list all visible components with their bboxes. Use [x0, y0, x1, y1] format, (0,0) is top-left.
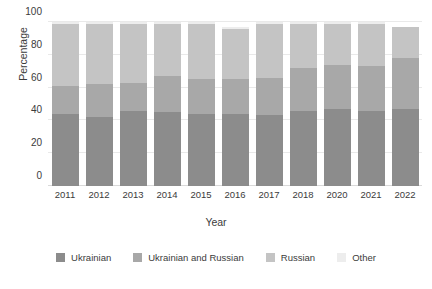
bar-segment[interactable] [324, 65, 351, 109]
y-axis-tick-label: 80 [31, 38, 42, 49]
legend-label: Ukrainian and Russian [148, 252, 244, 263]
bar-column[interactable] [52, 22, 79, 186]
bar-segment[interactable] [358, 66, 385, 110]
legend-swatch-icon [337, 253, 346, 262]
bar-segment[interactable] [290, 111, 317, 186]
bar-column[interactable] [256, 22, 283, 186]
bar-column[interactable] [324, 22, 351, 186]
legend-item[interactable]: Ukrainian and Russian [133, 252, 244, 263]
legend-label: Ukrainian [71, 252, 111, 263]
bar-group [48, 22, 422, 186]
legend-item[interactable]: Other [337, 252, 376, 263]
chart-title [0, 0, 432, 1]
bar-column[interactable] [392, 22, 419, 186]
x-axis-tick-label: 2014 [154, 189, 181, 200]
bar-segment[interactable] [154, 112, 181, 186]
bar-segment[interactable] [290, 68, 317, 111]
bar-segment[interactable] [256, 78, 283, 116]
bar-column[interactable] [120, 22, 147, 186]
bar-segment[interactable] [154, 24, 181, 76]
x-axis-tick-label: 2012 [86, 189, 113, 200]
x-axis-label: Year [0, 216, 432, 228]
bar-segment[interactable] [120, 24, 147, 83]
bar-column[interactable] [222, 22, 249, 186]
chart-container: Percentage 020406080100 2011201220132014… [0, 0, 432, 289]
bar-segment[interactable] [120, 111, 147, 186]
bar-segment[interactable] [52, 114, 79, 186]
bar-segment[interactable] [154, 76, 181, 112]
legend-label: Russian [281, 252, 315, 263]
bar-segment[interactable] [392, 58, 419, 109]
legend-swatch-icon [56, 253, 65, 262]
x-axis-tick-label: 2017 [256, 189, 283, 200]
y-axis-tick-label: 20 [31, 137, 42, 148]
x-axis-tick-label: 2018 [290, 189, 317, 200]
chart-legend: UkrainianUkrainian and RussianRussianOth… [0, 252, 432, 263]
legend-label: Other [352, 252, 376, 263]
bar-segment[interactable] [188, 79, 215, 113]
x-axis-tick-label: 2015 [188, 189, 215, 200]
bar-segment[interactable] [358, 24, 385, 67]
bar-segment[interactable] [188, 24, 215, 80]
bar-column[interactable] [86, 22, 113, 186]
bar-segment[interactable] [86, 24, 113, 85]
legend-item[interactable]: Ukrainian [56, 252, 111, 263]
y-axis-tick-label: 0 [36, 170, 42, 181]
bar-segment[interactable] [256, 115, 283, 186]
legend-swatch-icon [266, 253, 275, 262]
x-axis-tick-label: 2016 [222, 189, 249, 200]
bar-segment[interactable] [222, 79, 249, 113]
bar-column[interactable] [154, 22, 181, 186]
bar-segment[interactable] [290, 24, 317, 68]
bar-segment[interactable] [86, 117, 113, 186]
bar-segment[interactable] [188, 114, 215, 186]
bar-segment[interactable] [222, 29, 249, 80]
bar-column[interactable] [188, 22, 215, 186]
y-axis-label: Percentage [17, 4, 29, 104]
x-axis-tick-label: 2011 [52, 189, 79, 200]
bar-segment[interactable] [392, 109, 419, 186]
x-axis-tick-label: 2020 [324, 189, 351, 200]
x-axis-tick-labels: 2011201220132014201520162017201820202021… [48, 189, 422, 200]
legend-swatch-icon [133, 253, 142, 262]
bar-segment[interactable] [222, 114, 249, 186]
bar-segment[interactable] [358, 111, 385, 186]
plot-area: 020406080100 [48, 22, 422, 186]
bar-segment[interactable] [392, 27, 419, 58]
y-axis-tick-label: 100 [25, 6, 42, 17]
bar-segment[interactable] [324, 24, 351, 65]
bar-segment[interactable] [324, 109, 351, 186]
legend-item[interactable]: Russian [266, 252, 315, 263]
y-axis-tick-label: 60 [31, 71, 42, 82]
bar-segment[interactable] [120, 83, 147, 111]
bar-segment[interactable] [52, 86, 79, 114]
bar-segment[interactable] [256, 24, 283, 78]
y-axis-tick-label: 40 [31, 104, 42, 115]
x-axis-tick-label: 2022 [392, 189, 419, 200]
bar-segment[interactable] [86, 84, 113, 117]
x-axis-tick-label: 2013 [120, 189, 147, 200]
x-axis-tick-label: 2021 [358, 189, 385, 200]
bar-column[interactable] [358, 22, 385, 186]
bar-column[interactable] [290, 22, 317, 186]
bar-segment[interactable] [52, 24, 79, 86]
